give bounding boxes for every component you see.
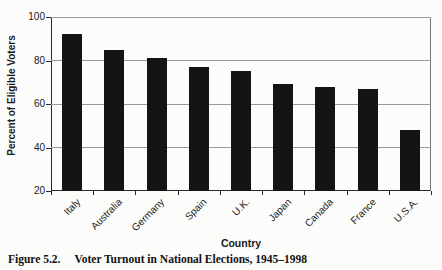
y-axis-title-box: Percent of Eligible Voters	[0, 8, 22, 183]
x-axis-title: Country	[51, 237, 431, 249]
x-tick-mark-5	[262, 191, 263, 195]
figure-page: Percent of Eligible Voters Country Figur…	[0, 0, 442, 270]
bar-germany	[147, 58, 167, 191]
x-tick-mark-4	[220, 191, 221, 195]
x-category-label-spain: Spain	[184, 197, 209, 222]
x-category-label-australia: Australia	[90, 197, 125, 232]
x-tick-mark-3	[178, 191, 179, 195]
x-category-label-usa: U.S.A.	[392, 197, 420, 225]
gridline-100	[51, 17, 431, 18]
x-tick-mark-7	[347, 191, 348, 195]
y-axis-title: Percent of Eligible Voters	[6, 35, 17, 155]
bar-australia	[104, 50, 124, 191]
y-tick-mark-40	[46, 148, 51, 149]
bar-france	[358, 89, 378, 191]
figure-caption: Figure 5.2.Voter Turnout in National Ele…	[8, 253, 438, 265]
bar-usa	[400, 130, 420, 191]
y-tick-label-80: 80	[15, 56, 45, 66]
figure-caption-title: Voter Turnout in National Elections, 194…	[75, 253, 308, 265]
y-tick-mark-80	[46, 61, 51, 62]
bar-canada	[315, 87, 335, 191]
bar-uk	[231, 71, 251, 191]
y-tick-label-20: 20	[15, 186, 45, 196]
y-tick-mark-60	[46, 104, 51, 105]
x-tick-mark-2	[135, 191, 136, 195]
y-tick-label-100: 100	[15, 12, 45, 22]
x-category-label-japan: Japan	[267, 197, 293, 223]
x-tick-mark-0	[51, 191, 52, 195]
x-category-label-germany: Germany	[130, 197, 166, 233]
y-tick-mark-100	[46, 17, 51, 18]
x-tick-mark-6	[304, 191, 305, 195]
bar-japan	[273, 84, 293, 191]
x-category-label-france: France	[349, 197, 378, 226]
bar-spain	[189, 67, 209, 191]
x-tick-mark-9	[431, 191, 432, 195]
x-category-label-italy: Italy	[62, 197, 82, 217]
x-tick-mark-8	[389, 191, 390, 195]
x-category-label-canada: Canada	[304, 197, 336, 229]
x-category-label-uk: U.K.	[230, 197, 251, 218]
bar-chart-plot-area	[51, 17, 431, 191]
x-tick-mark-1	[93, 191, 94, 195]
bar-italy	[62, 34, 82, 191]
figure-caption-number: Figure 5.2.	[8, 253, 61, 265]
y-tick-label-60: 60	[15, 99, 45, 109]
y-tick-label-40: 40	[15, 143, 45, 153]
